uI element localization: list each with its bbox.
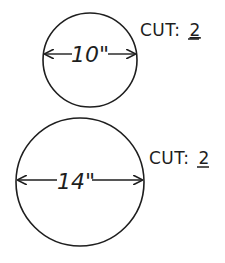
large-diameter-label: 14" xyxy=(57,169,95,194)
large-cut-label: CUT: 2 xyxy=(149,148,210,168)
large-circle-group: 14" CUT: 2 xyxy=(16,118,210,246)
small-diameter-label: 10" xyxy=(71,42,109,67)
large-cut-count: 2 xyxy=(198,148,209,168)
small-cut-label: CUT: 2 xyxy=(140,20,201,40)
small-cut-count: 2 xyxy=(189,20,200,40)
small-circle-group: 10" CUT: 2 xyxy=(43,13,201,107)
large-cut-prefix: CUT: xyxy=(149,148,190,168)
cutting-diagram: 10" CUT: 2 14" CUT: 2 xyxy=(0,0,225,263)
small-cut-prefix: CUT: xyxy=(140,20,181,40)
